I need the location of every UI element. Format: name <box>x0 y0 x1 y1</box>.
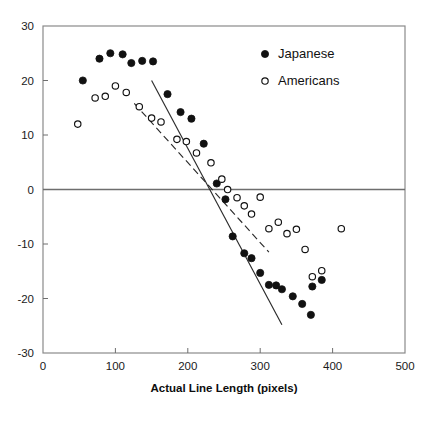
y-tick-label: 20 <box>21 75 34 87</box>
data-point-americans <box>148 115 154 121</box>
legend-label-japanese: Japanese <box>278 46 334 61</box>
data-point-americans <box>219 176 225 182</box>
data-point-americans <box>112 83 118 89</box>
data-point-japanese <box>307 311 314 318</box>
data-point-americans <box>309 274 315 280</box>
data-point-americans <box>102 93 108 99</box>
data-point-americans <box>183 138 189 144</box>
legend-label-americans: Americans <box>278 73 340 88</box>
y-tick-label: 0 <box>28 184 34 196</box>
x-tick-label: 100 <box>106 360 125 372</box>
data-point-americans <box>275 219 281 225</box>
data-point-americans <box>224 186 230 192</box>
trendline-solid <box>152 81 282 325</box>
data-point-japanese <box>257 269 264 276</box>
data-point-americans <box>75 121 81 127</box>
data-point-americans <box>234 194 240 200</box>
data-point-japanese <box>229 233 236 240</box>
data-point-japanese <box>248 255 255 262</box>
data-point-japanese <box>289 293 296 300</box>
data-point-japanese <box>318 276 325 283</box>
data-point-americans <box>193 150 199 156</box>
data-point-americans <box>92 95 98 101</box>
legend-marker-americans <box>262 78 268 84</box>
data-point-japanese <box>119 51 126 58</box>
data-point-japanese <box>139 57 146 64</box>
data-point-japanese <box>222 196 229 203</box>
data-point-americans <box>284 230 290 236</box>
data-point-americans <box>123 89 129 95</box>
data-point-japanese <box>200 140 207 147</box>
data-point-japanese <box>128 59 135 66</box>
data-point-japanese <box>299 300 306 307</box>
data-point-americans <box>293 226 299 232</box>
data-point-japanese <box>79 77 86 84</box>
data-point-americans <box>338 226 344 232</box>
data-point-japanese <box>177 109 184 116</box>
data-point-americans <box>266 226 272 232</box>
data-point-americans <box>158 119 164 125</box>
scatter-plot: 0100200300400500-30-20-100102030Japanese… <box>0 0 424 421</box>
data-point-americans <box>208 160 214 166</box>
x-axis-title: Actual Line Length (pixels) <box>151 382 298 394</box>
x-tick-label: 0 <box>40 360 46 372</box>
x-tick-label: 500 <box>395 360 414 372</box>
data-point-japanese <box>278 286 285 293</box>
legend-marker-japanese <box>261 50 268 57</box>
x-tick-label: 200 <box>178 360 197 372</box>
data-point-japanese <box>96 55 103 62</box>
data-point-americans <box>241 203 247 209</box>
trendline-dashed <box>134 103 269 252</box>
data-point-japanese <box>241 250 248 257</box>
data-point-americans <box>302 246 308 252</box>
data-point-japanese <box>265 281 272 288</box>
x-tick-label: 400 <box>323 360 342 372</box>
data-point-americans <box>136 103 142 109</box>
x-tick-label: 300 <box>251 360 270 372</box>
data-point-japanese <box>309 283 316 290</box>
y-tick-label: -10 <box>17 238 34 250</box>
data-point-americans <box>257 194 263 200</box>
y-tick-label: -20 <box>17 293 34 305</box>
y-tick-label: 10 <box>21 129 34 141</box>
data-point-americans <box>248 211 254 217</box>
data-point-japanese <box>164 91 171 98</box>
data-point-japanese <box>149 58 156 65</box>
data-point-japanese <box>107 50 114 57</box>
data-point-americans <box>319 268 325 274</box>
y-tick-label: -30 <box>17 347 34 359</box>
data-point-americans <box>174 136 180 142</box>
chart-figure: 0100200300400500-30-20-100102030Japanese… <box>0 0 424 421</box>
data-point-japanese <box>188 115 195 122</box>
y-tick-label: 30 <box>21 20 34 32</box>
